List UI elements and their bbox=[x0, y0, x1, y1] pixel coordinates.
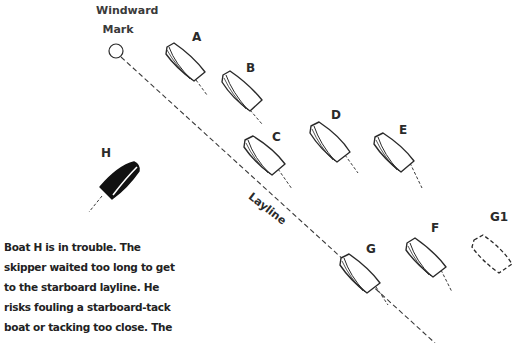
boat-label-f: F bbox=[431, 222, 439, 234]
boat-label-e: E bbox=[399, 124, 407, 136]
caption-line: risks fouling a starboard-tack bbox=[4, 297, 194, 317]
caption-line: skipper waited too long to get bbox=[4, 257, 194, 277]
windward-mark-label-line1: Windward bbox=[96, 5, 156, 16]
boat-b-icon bbox=[222, 71, 262, 124]
caption-line: boat or tacking too close. The bbox=[4, 317, 194, 337]
boat-g1-ghost-icon bbox=[472, 235, 512, 273]
boat-a-icon bbox=[166, 43, 207, 95]
boat-h-icon bbox=[89, 162, 139, 212]
boat-label-d: D bbox=[331, 109, 341, 121]
boat-g-icon bbox=[340, 254, 388, 305]
windward-mark-label: Windward bbox=[96, 5, 156, 16]
windward-mark-label-line2: Mark bbox=[98, 24, 138, 35]
boat-label-c: C bbox=[272, 131, 281, 143]
boat-label-g1: G1 bbox=[490, 211, 508, 223]
windward-mark-label-2: Mark bbox=[98, 24, 138, 35]
caption: Boat H is in trouble. The skipper waited… bbox=[4, 237, 194, 337]
caption-line: to the starboard layline. He bbox=[4, 277, 194, 297]
boat-label-b: B bbox=[246, 62, 255, 74]
boat-label-a: A bbox=[192, 31, 201, 43]
caption-line: Boat H is in trouble. The bbox=[4, 237, 194, 257]
boat-d-icon bbox=[310, 122, 358, 173]
boat-label-g: G bbox=[366, 243, 376, 255]
boat-label-h: H bbox=[101, 147, 111, 159]
windward-mark-icon bbox=[109, 44, 123, 58]
boat-f-icon bbox=[406, 238, 452, 292]
boat-c-icon bbox=[244, 136, 292, 189]
boat-e-icon bbox=[374, 133, 422, 188]
